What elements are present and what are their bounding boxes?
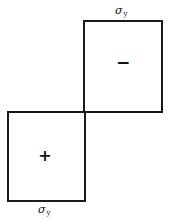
plus-sign: + [35,148,55,164]
sigma-symbol: σ [115,4,123,17]
subscript-y: y [47,209,51,217]
subscript-y: y [124,10,128,18]
sigma-symbol: σ [38,203,46,216]
minus-sign: − [113,54,133,71]
top-stress-label: σy [115,5,127,18]
bottom-stress-label: σy [38,204,50,217]
